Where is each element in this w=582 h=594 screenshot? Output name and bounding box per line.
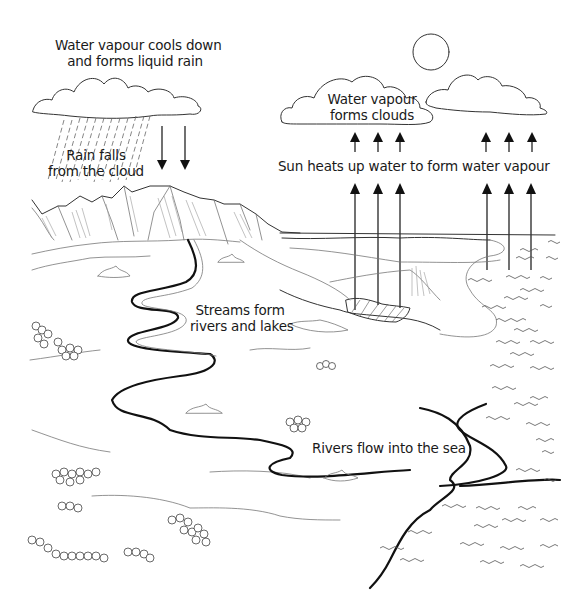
down-arrows-icon [157,126,190,170]
runoff-label-text: Rivers flow into the sea [312,440,462,456]
up-arrows-lower-icon [350,183,536,310]
condensation-label: Water vapour cools down and forms liquid… [55,37,215,69]
precipitation-label-line-2: from the cloud [46,163,146,179]
precipitation-label-line-1: Rain falls [46,147,146,163]
horizon-line [280,233,555,235]
collection-label-line-2: rivers and lakes [190,318,290,334]
sun-icon [413,34,449,70]
mountains-icon [32,186,300,244]
river-icon [112,240,560,588]
runoff-label: Rivers flow into the sea [312,440,462,456]
collection-label: Streams form rivers and lakes [190,302,290,334]
clouds-label: Water vapour forms clouds [322,91,422,123]
up-arrows-upper-icon [350,132,537,152]
precipitation-label: Rain falls from the cloud [46,147,146,179]
evaporation-label: Sun heats up water to form water vapour [278,158,536,174]
land-outlines-icon [30,237,504,520]
collection-label-line-1: Streams form [190,302,290,318]
forests-icon [28,322,336,562]
clouds-label-line-1: Water vapour [322,91,422,107]
condensation-label-line-2: and forms liquid rain [55,53,215,69]
diagram-artwork [0,0,582,594]
clouds-label-line-2: forms clouds [322,107,422,123]
condensation-label-line-1: Water vapour cools down [55,37,215,53]
evaporation-label-text: Sun heats up water to form water vapour [278,158,536,174]
rain-cloud-icon [33,78,201,118]
water-cycle-diagram: Water vapour cools down and forms liquid… [0,0,582,594]
